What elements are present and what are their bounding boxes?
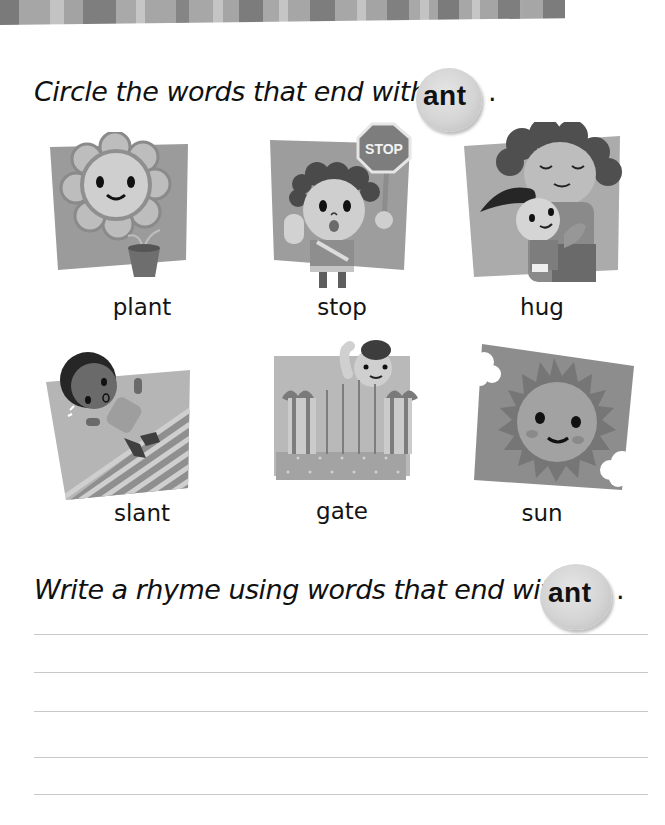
- header-stripe: [543, 0, 565, 25]
- rhyme-instruction-text: Write a rhyme using words that end with: [34, 574, 567, 605]
- rhyme-instruction: Write a rhyme using words that end with: [34, 572, 567, 605]
- header-stripe: [288, 0, 310, 25]
- circle-instruction: Circle the words that end with: [34, 74, 427, 107]
- picture-slant[interactable]: [40, 340, 200, 505]
- writing-line-1[interactable]: [34, 634, 648, 635]
- writing-line-5[interactable]: [34, 794, 648, 795]
- smiling-sun-illustration: [470, 340, 640, 490]
- header-stripe: [189, 0, 213, 25]
- header-stripe: [335, 0, 357, 25]
- header-stripe: [83, 0, 116, 25]
- child-sliding-illustration: [40, 340, 200, 505]
- header-stripe: [19, 0, 50, 25]
- svg-text:STOP: STOP: [365, 141, 403, 157]
- header-stripe: [480, 0, 498, 25]
- header-stripe: [387, 0, 409, 25]
- header-stripe: [429, 0, 438, 25]
- picture-hug[interactable]: [460, 122, 630, 290]
- writing-line-2[interactable]: [34, 672, 648, 673]
- header-stripe: [213, 0, 223, 25]
- header-stripe: [50, 0, 64, 25]
- header-stripe: [145, 0, 176, 25]
- word-stop[interactable]: stop: [282, 294, 402, 320]
- child-behind-gate-illustration: [268, 340, 418, 485]
- header-stripe: [310, 0, 335, 25]
- header-stripe: [420, 0, 429, 25]
- header-stripe: [223, 0, 239, 25]
- header-stripe: [472, 0, 480, 25]
- header-stripe: [116, 0, 136, 25]
- flower-pot-illustration: [40, 132, 200, 282]
- header-stripe: [279, 0, 288, 25]
- picture-plant[interactable]: [40, 132, 200, 282]
- period-2: .: [616, 574, 625, 605]
- header-stripe-bar: [0, 0, 665, 25]
- circle-instruction-text: Circle the words that end with: [34, 76, 427, 107]
- ant-target-word: ant: [423, 80, 467, 112]
- period: .: [488, 76, 497, 107]
- header-stripe: [263, 0, 279, 25]
- writing-line-4[interactable]: [34, 757, 648, 758]
- word-sun[interactable]: sun: [482, 500, 602, 526]
- writing-line-3[interactable]: [34, 711, 648, 712]
- word-slant[interactable]: slant: [82, 500, 202, 526]
- header-stripe: [366, 0, 387, 25]
- header-stripe: [498, 0, 520, 25]
- header-stripe: [64, 0, 83, 25]
- picture-gate[interactable]: [268, 340, 418, 485]
- header-stripe: [438, 0, 459, 25]
- picture-stop[interactable]: STOP: [262, 122, 422, 294]
- header-stripe: [459, 0, 472, 25]
- word-plant[interactable]: plant: [82, 294, 202, 320]
- header-stripe: [523, 0, 543, 25]
- header-stripe: [136, 0, 145, 25]
- header-stripe: [239, 0, 263, 25]
- header-stripe: [409, 0, 420, 25]
- word-hug[interactable]: hug: [482, 294, 602, 320]
- mother-hug-illustration: [460, 122, 630, 290]
- picture-sun[interactable]: [470, 340, 640, 490]
- header-stripe: [0, 0, 19, 25]
- header-stripe: [357, 0, 366, 25]
- header-stripe: [176, 0, 189, 25]
- crossing-guard-illustration: STOP: [262, 122, 422, 294]
- ant-target-word-2: ant: [548, 577, 592, 609]
- word-gate[interactable]: gate: [282, 498, 402, 524]
